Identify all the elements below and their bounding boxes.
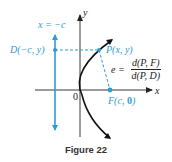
point-d-label: D(−c, y) [10,45,45,55]
origin-label: 0 [73,92,78,102]
x-axis-label: x [155,86,159,96]
point-d-dot [53,48,57,52]
point-p-dot [97,48,101,52]
directrix-label: x = −c [38,20,65,30]
figure-caption: Figure 22 [0,144,172,155]
focus-label-prefix: F(c, [108,95,127,106]
eccentricity-numerator: d(P, F) [131,58,161,70]
eccentricity-lhs: e = [111,65,125,75]
focus-label: F(c, 0) [108,96,135,106]
eccentricity-fraction: d(P, F) d(P, D) [131,58,161,81]
eccentricity-denominator: d(P, D) [131,70,161,81]
y-axis-label: y [83,8,87,18]
focus-label-suffix: ) [132,95,135,106]
dashed-segment-pf [99,50,110,90]
diagram-canvas [0,0,172,162]
focus-dot [108,88,113,93]
point-p-label: P(x, y) [106,45,133,55]
